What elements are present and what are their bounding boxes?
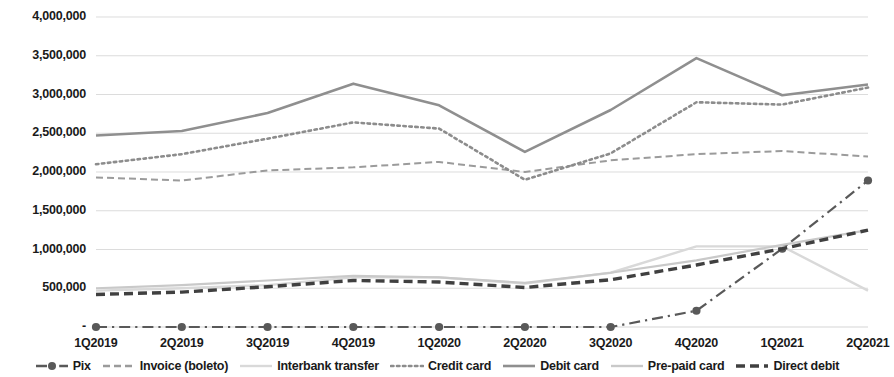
legend-label: Credit card bbox=[428, 360, 491, 373]
legend-label: Pre-paid card bbox=[648, 360, 725, 373]
x-axis-tick-label: 1Q2019 bbox=[56, 336, 136, 350]
y-axis-tick-label: 3,000,000 bbox=[0, 87, 86, 101]
x-axis-tick-label: 2Q2020 bbox=[485, 336, 565, 350]
legend-swatch-dotted-icon bbox=[390, 360, 424, 372]
legend-swatch-solid-icon bbox=[239, 360, 273, 372]
legend-item-debit-card[interactable]: Debit card bbox=[502, 360, 599, 373]
data-point-marker bbox=[92, 323, 100, 331]
data-point-marker bbox=[607, 323, 615, 331]
data-point-marker bbox=[435, 323, 443, 331]
y-axis-tick-label: 2,000,000 bbox=[0, 164, 86, 178]
y-axis-tick-label: 4,000,000 bbox=[0, 9, 86, 23]
y-axis-tick-label: 2,500,000 bbox=[0, 125, 86, 139]
x-axis-tick-label: 2Q2021 bbox=[828, 336, 894, 350]
series-line-direct-debit bbox=[96, 230, 868, 294]
legend-item-invoice-boleto[interactable]: Invoice (boleto) bbox=[102, 360, 228, 373]
x-axis-tick-label: 3Q2020 bbox=[571, 336, 651, 350]
data-point-marker bbox=[349, 323, 357, 331]
y-axis-tick-label: 1,500,000 bbox=[0, 203, 86, 217]
y-axis-tick-label: - bbox=[0, 319, 86, 333]
series-layer bbox=[92, 58, 872, 331]
legend-swatch-solid-icon bbox=[502, 360, 536, 372]
x-axis-tick-label: 1Q2020 bbox=[399, 336, 479, 350]
y-axis-tick-label: 1,000,000 bbox=[0, 242, 86, 256]
x-axis-tick-label: 4Q2019 bbox=[313, 336, 393, 350]
legend-item-pix[interactable]: Pix bbox=[35, 360, 91, 373]
legend-item-direct-debit[interactable]: Direct debit bbox=[735, 360, 839, 373]
series-line-debit-card bbox=[96, 58, 868, 152]
data-point-marker bbox=[521, 323, 529, 331]
legend-label: Direct debit bbox=[773, 360, 839, 373]
x-axis-tick-label: 1Q2021 bbox=[742, 336, 822, 350]
legend-item-pre-paid-card[interactable]: Pre-paid card bbox=[610, 360, 725, 373]
data-point-marker bbox=[178, 323, 186, 331]
legend-swatch-dashed-icon bbox=[102, 360, 136, 372]
legend-label: Pix bbox=[73, 360, 91, 373]
legend-label: Invoice (boleto) bbox=[140, 360, 228, 373]
legend-item-interbank-transfer[interactable]: Interbank transfer bbox=[239, 360, 379, 373]
legend-item-credit-card[interactable]: Credit card bbox=[390, 360, 491, 373]
legend-swatch-dash-dot-icon bbox=[35, 360, 69, 372]
data-point-marker bbox=[692, 307, 700, 315]
y-axis-tick-label: 3,500,000 bbox=[0, 48, 86, 62]
series-line-pre-paid-card bbox=[96, 230, 868, 288]
chart-legend: PixInvoice (boleto)Interbank transferCre… bbox=[0, 355, 874, 377]
data-point-marker bbox=[864, 176, 872, 184]
x-axis-tick-label: 4Q2020 bbox=[656, 336, 736, 350]
legend-label: Debit card bbox=[540, 360, 599, 373]
x-axis-tick-label: 2Q2019 bbox=[142, 336, 222, 350]
legend-label: Interbank transfer bbox=[277, 360, 379, 373]
y-axis-tick-label: 500,000 bbox=[0, 280, 86, 294]
legend-swatch-solid-icon bbox=[610, 360, 644, 372]
legend-swatch-dashed-icon bbox=[735, 360, 769, 372]
x-axis-tick-label: 3Q2019 bbox=[228, 336, 308, 350]
data-point-marker bbox=[263, 323, 271, 331]
